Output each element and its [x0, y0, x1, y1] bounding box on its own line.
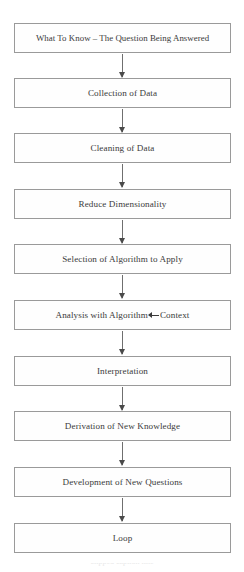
- flowchart-node-reduce-dimensionality: Reduce Dimensionality: [14, 189, 231, 219]
- node-label: Collection of Data: [85, 88, 160, 98]
- node-label: Derivation of New Knowledge: [62, 421, 183, 431]
- flowchart-diagram: What To Know – The Question Being Answer…: [0, 0, 244, 572]
- connector-9: [122, 498, 123, 521]
- node-label: Development of New Questions: [60, 477, 186, 487]
- node-label: Reduce Dimensionality: [76, 199, 170, 209]
- node-label: Selection of Algorithm to Apply: [59, 254, 186, 264]
- arrowhead-icon: [119, 349, 125, 355]
- flowchart-node-loop: Loop: [14, 523, 231, 553]
- connector-8: [122, 442, 123, 465]
- arrowhead-icon: [119, 293, 125, 299]
- flowchart-node-analysis-with-algorithm: Analysis with AlgorithmContext: [14, 300, 231, 330]
- connector-1: [122, 54, 123, 77]
- flowchart-node-selection-of-algorithm: Selection of Algorithm to Apply: [14, 244, 231, 274]
- connector-4: [122, 220, 123, 243]
- node-label-after-arrow: Context: [160, 310, 190, 320]
- flowchart-node-interpretation: Interpretation: [14, 356, 231, 386]
- connector-5: [122, 275, 123, 298]
- node-label: Loop: [110, 533, 136, 543]
- flowchart-node-collection-of-data: Collection of Data: [14, 78, 231, 108]
- connector-7: [122, 387, 123, 410]
- connector-3: [122, 164, 123, 187]
- flowchart-node-development-of-questions: Development of New Questions: [14, 467, 231, 497]
- node-label: Interpretation: [94, 366, 151, 376]
- node-label: What To Know – The Question Being Answer…: [33, 33, 212, 43]
- node-label-before-arrow: Analysis with Algorithm: [55, 310, 147, 320]
- clipped-caption-text: clipped caption line: [0, 563, 244, 566]
- flowchart-node-derivation-of-knowledge: Derivation of New Knowledge: [14, 411, 231, 441]
- arrowhead-icon: [119, 516, 125, 522]
- node-label: Analysis with AlgorithmContext: [52, 310, 192, 320]
- clipped-caption-remnant: clipped caption line: [0, 563, 244, 572]
- connector-2: [122, 109, 123, 132]
- node-label: Cleaning of Data: [88, 143, 158, 153]
- connector-6: [122, 331, 123, 354]
- arrowhead-icon: [119, 182, 125, 188]
- left-arrow-icon: [148, 312, 159, 319]
- flowchart-node-what-to-know: What To Know – The Question Being Answer…: [14, 23, 231, 53]
- flowchart-node-cleaning-of-data: Cleaning of Data: [14, 133, 231, 163]
- arrowhead-icon: [119, 460, 125, 466]
